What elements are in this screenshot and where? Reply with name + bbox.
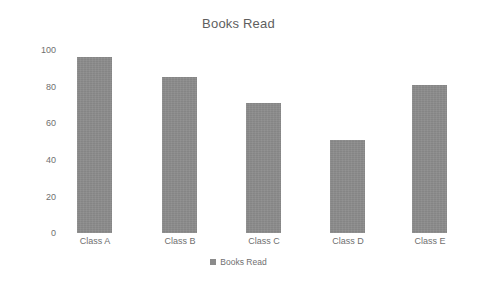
x-axis-label-class-e: Class E <box>385 236 475 247</box>
bar-class-b[interactable] <box>162 77 197 233</box>
legend-label-books-read[interactable]: Books Read <box>220 257 266 267</box>
y-axis-tick-label-80: 80 <box>22 82 56 92</box>
bar-class-c[interactable] <box>246 103 281 233</box>
bar-class-a[interactable] <box>77 57 112 233</box>
x-axis-label-class-a: Class A <box>50 236 140 247</box>
books-read-bar-chart: Books Read 100 80 60 40 20 0 Class A Cla… <box>0 0 477 285</box>
bar-class-e[interactable] <box>412 85 447 233</box>
y-axis-tick-label-100: 100 <box>22 45 56 55</box>
x-axis-label-class-c: Class C <box>219 236 309 247</box>
plot-area: 100 80 60 40 20 0 Class A Class B Class … <box>0 0 477 285</box>
y-axis-tick-label-20: 20 <box>22 192 56 202</box>
y-axis-tick-label-60: 60 <box>22 118 56 128</box>
x-axis-label-class-d: Class D <box>303 236 393 247</box>
bar-class-d[interactable] <box>330 140 365 233</box>
chart-legend: Books Read <box>0 257 477 267</box>
legend-square-marker-icon <box>210 259 216 265</box>
x-axis-label-class-b: Class B <box>135 236 225 247</box>
y-axis-tick-label-40: 40 <box>22 155 56 165</box>
